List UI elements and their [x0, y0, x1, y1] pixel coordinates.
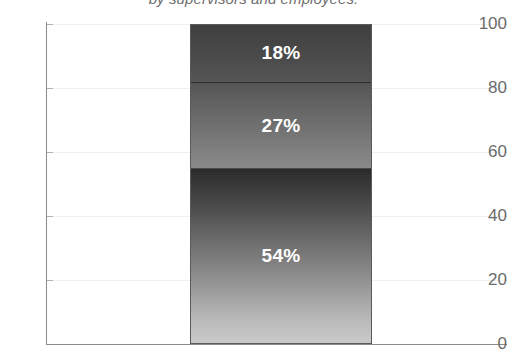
x-axis-line: [46, 344, 507, 345]
y-tick-label-40: 40: [469, 207, 507, 224]
stacked-bar-chart: by supervisors and employees. 100 80 60 …: [0, 0, 507, 357]
stacked-bar[interactable]: 18% 27% 54%: [190, 24, 372, 344]
y-tick-label-100: 100: [469, 15, 507, 32]
bar-segment-label-18: 18%: [262, 42, 301, 64]
tick-mark-80: [47, 88, 53, 89]
y-tick-label-0: 0: [469, 335, 507, 352]
tick-mark-20: [47, 280, 53, 281]
tick-mark-60: [47, 152, 53, 153]
chart-title: by supervisors and employees.: [0, 0, 507, 7]
y-axis-line: [46, 22, 47, 345]
bar-segment-27[interactable]: 27%: [191, 83, 371, 169]
y-tick-label-20: 20: [469, 271, 507, 288]
bar-segment-label-54: 54%: [262, 245, 301, 267]
tick-mark-40: [47, 216, 53, 217]
bar-segment-label-27: 27%: [262, 115, 301, 137]
bar-segment-18[interactable]: 18%: [191, 25, 371, 83]
y-tick-label-60: 60: [469, 143, 507, 160]
bar-segment-54[interactable]: 54%: [191, 169, 371, 343]
tick-mark-100: [47, 24, 53, 25]
y-tick-label-80: 80: [469, 79, 507, 96]
